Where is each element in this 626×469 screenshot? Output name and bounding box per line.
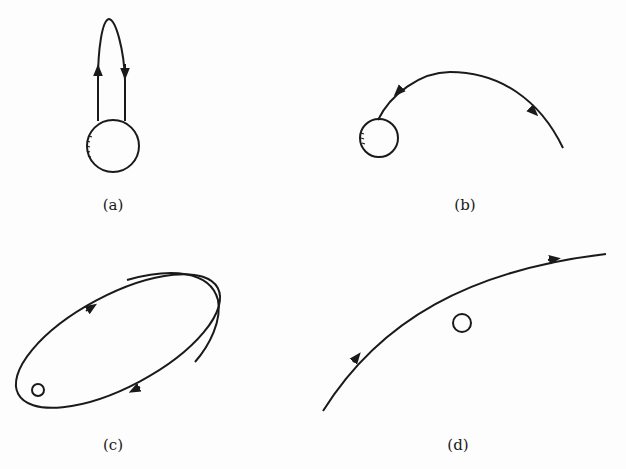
panel-a-label: (a) — [103, 196, 124, 214]
panel-b-diagram — [360, 72, 563, 157]
escape-trajectory — [378, 72, 563, 148]
precessed-orbit — [127, 273, 219, 362]
trajectory-loop — [98, 19, 125, 121]
small-body — [32, 384, 44, 396]
orbit-diagram — [0, 0, 626, 469]
panel-c-diagram — [0, 247, 239, 434]
panel-a-diagram — [87, 19, 139, 172]
panel-d-diagram — [323, 254, 606, 411]
planet-body — [87, 120, 139, 172]
elliptical-orbit — [0, 247, 239, 434]
planet-body — [360, 119, 398, 157]
panel-c-label: (c) — [103, 436, 123, 454]
panel-b-label: (b) — [454, 196, 475, 214]
small-body — [453, 314, 471, 332]
panel-d-label: (d) — [447, 436, 468, 454]
